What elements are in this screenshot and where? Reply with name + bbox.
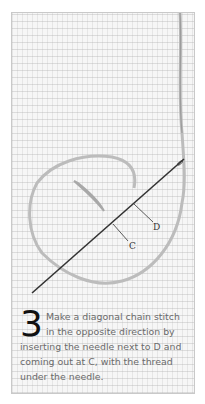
point-d-label: D [153, 222, 160, 232]
step-text: Make a diagonal chain stitch in the oppo… [20, 311, 181, 382]
step-number: 3 [20, 310, 43, 338]
point-c-label: C [129, 241, 136, 251]
step-caption: 3 Make a diagonal chain stitch in the op… [20, 309, 190, 384]
instruction-card: D C 3 Make a diagonal chain stitch in th… [11, 12, 195, 394]
